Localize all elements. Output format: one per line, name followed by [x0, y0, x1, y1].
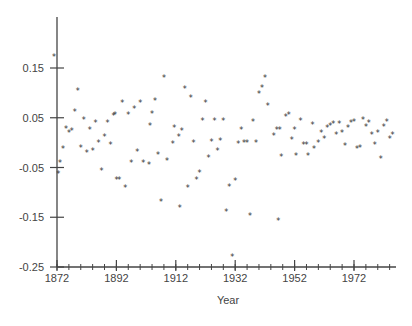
- data-point-marker: *: [276, 217, 280, 226]
- data-point-marker: *: [88, 126, 92, 135]
- data-point-marker: *: [61, 145, 65, 154]
- data-point-marker: *: [82, 116, 86, 125]
- y-tick-label: -0.05: [19, 162, 44, 174]
- data-point-marker: *: [198, 169, 202, 178]
- data-point-marker: *: [56, 170, 60, 179]
- data-point-marker: *: [370, 131, 374, 140]
- data-point-marker: *: [312, 145, 316, 154]
- data-points: ****************************************…: [52, 53, 395, 262]
- data-point-marker: *: [189, 94, 193, 103]
- x-axis-title: Year: [217, 294, 240, 306]
- data-point-marker: *: [230, 253, 234, 262]
- data-point-marker: *: [236, 140, 240, 149]
- x-tick-label: 1892: [104, 272, 128, 284]
- data-point-marker: *: [148, 122, 152, 131]
- data-point-marker: *: [201, 117, 205, 126]
- data-point-marker: *: [254, 139, 258, 148]
- data-point-marker: *: [172, 124, 176, 133]
- data-point-marker: *: [279, 153, 283, 162]
- data-point-marker: *: [204, 99, 208, 108]
- data-point-marker: *: [263, 74, 267, 83]
- data-point-marker: *: [129, 159, 133, 168]
- data-point-marker: *: [183, 85, 187, 94]
- data-point-marker: *: [306, 152, 310, 161]
- data-point-marker: *: [287, 111, 291, 120]
- data-point-marker: *: [212, 117, 216, 126]
- data-point-marker: *: [248, 212, 252, 221]
- data-point-marker: *: [76, 87, 80, 96]
- x-tick-label: 1972: [342, 272, 366, 284]
- data-point-marker: *: [233, 177, 237, 186]
- scatter-chart: 0.150.05-0.05-0.15-0.2518721892191219321…: [0, 0, 412, 326]
- data-point-marker: *: [209, 138, 213, 147]
- data-point-marker: *: [126, 111, 130, 120]
- data-point-marker: *: [94, 119, 98, 128]
- axes: 0.150.05-0.05-0.15-0.2518721892191219321…: [19, 17, 396, 284]
- data-point-marker: *: [162, 74, 166, 83]
- data-point-marker: *: [304, 141, 308, 150]
- data-point-marker: *: [224, 208, 228, 217]
- data-point-marker: *: [316, 139, 320, 148]
- data-point-marker: *: [103, 133, 107, 142]
- data-point-marker: *: [79, 144, 83, 153]
- data-point-marker: *: [299, 117, 303, 126]
- data-point-marker: *: [391, 131, 395, 140]
- data-point-marker: *: [334, 131, 338, 140]
- data-point-marker: *: [73, 108, 77, 117]
- data-point-marker: *: [379, 155, 383, 164]
- data-point-marker: *: [186, 184, 190, 193]
- data-point-marker: *: [294, 152, 298, 161]
- data-point-marker: *: [70, 127, 74, 136]
- data-point-marker: *: [156, 151, 160, 160]
- data-point-marker: *: [239, 126, 243, 135]
- x-tick-label: 1952: [282, 272, 306, 284]
- y-tick-label: -0.25: [19, 261, 44, 273]
- data-point-marker: *: [100, 167, 104, 176]
- data-point-marker: *: [251, 118, 255, 127]
- data-point-marker: *: [105, 119, 109, 128]
- data-point-marker: *: [120, 99, 124, 108]
- data-point-marker: *: [113, 111, 117, 120]
- data-point-marker: *: [85, 149, 89, 158]
- data-point-marker: *: [385, 118, 389, 127]
- data-point-marker: *: [245, 139, 249, 148]
- data-point-marker: *: [206, 154, 210, 163]
- data-point-marker: *: [150, 110, 154, 119]
- data-point-marker: *: [153, 97, 157, 106]
- data-point-marker: *: [135, 148, 139, 157]
- data-point-marker: *: [337, 120, 341, 129]
- data-point-marker: *: [91, 147, 95, 156]
- data-point-marker: *: [58, 159, 62, 168]
- y-tick-label: 0.05: [23, 112, 44, 124]
- y-tick-label: 0.15: [23, 62, 44, 74]
- data-point-marker: *: [266, 102, 270, 111]
- data-point-marker: *: [260, 84, 264, 93]
- data-point-marker: *: [159, 198, 163, 207]
- data-point-marker: *: [221, 117, 225, 126]
- data-point-marker: *: [343, 142, 347, 151]
- data-point-marker: *: [376, 129, 380, 138]
- data-point-marker: *: [117, 176, 121, 185]
- data-point-marker: *: [340, 129, 344, 138]
- data-point-marker: *: [352, 118, 356, 127]
- data-point-marker: *: [367, 119, 371, 128]
- data-point-marker: *: [310, 121, 314, 130]
- data-point-marker: *: [180, 127, 184, 136]
- data-point-marker: *: [215, 147, 219, 156]
- data-point-marker: *: [97, 139, 101, 148]
- data-point-marker: *: [138, 99, 142, 108]
- x-tick-label: 1872: [45, 272, 69, 284]
- data-point-marker: *: [278, 126, 282, 135]
- data-point-marker: *: [331, 120, 335, 129]
- data-point-marker: *: [218, 137, 222, 146]
- data-point-marker: *: [108, 141, 112, 150]
- data-point-marker: *: [52, 53, 56, 62]
- x-tick-label: 1912: [164, 272, 188, 284]
- data-point-marker: *: [322, 135, 326, 144]
- x-tick-label: 1932: [223, 272, 247, 284]
- data-point-marker: *: [147, 161, 151, 170]
- y-tick-label: -0.15: [19, 211, 44, 223]
- data-point-marker: *: [178, 204, 182, 213]
- data-point-marker: *: [192, 139, 196, 148]
- data-point-marker: *: [358, 144, 362, 153]
